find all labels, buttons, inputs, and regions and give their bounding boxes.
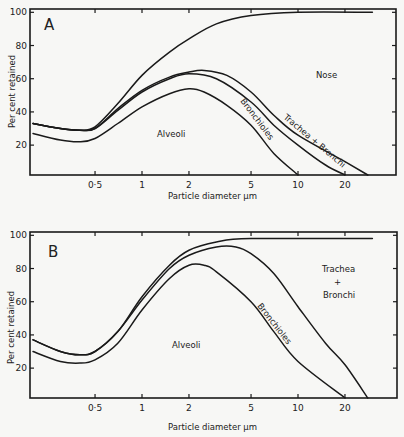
x-axis-label-a: Particle diameter µm xyxy=(168,191,257,201)
x-tick-label: 5 xyxy=(248,403,254,413)
y-tick-label: 20 xyxy=(16,140,28,150)
curves-b xyxy=(33,238,372,398)
series-curve xyxy=(33,246,368,398)
chart-panel-b: 0·5125102020406080100 B Trachea + Bronch… xyxy=(6,230,397,432)
region-label-bronchioles-b: Bronchioles xyxy=(255,301,294,347)
y-tick-label: 100 xyxy=(10,230,27,240)
y-axis-label-b: Per cent retained xyxy=(6,291,16,364)
panel-letter-a: A xyxy=(44,16,55,34)
y-axis-label-a: Per cent retained xyxy=(7,55,17,128)
x-tick-label: 2 xyxy=(186,403,192,413)
x-tick-label: 10 xyxy=(292,180,304,190)
x-tick-label: 5 xyxy=(248,180,254,190)
y-tick-label: 80 xyxy=(16,264,28,274)
y-tick-label: 100 xyxy=(10,7,27,17)
y-tick-label: 40 xyxy=(16,107,28,117)
x-axis-label-b: Particle diameter µm xyxy=(168,422,257,432)
x-tick-label: 2 xyxy=(186,180,192,190)
plot-frame-a xyxy=(30,9,396,175)
x-tick-label: 1 xyxy=(139,403,145,413)
x-tick-label: 1 xyxy=(139,180,145,190)
respiratory-retention-figure: 0·5125102020406080100 A Nose Trachea + B… xyxy=(0,0,404,437)
y-tick-label: 60 xyxy=(16,74,28,84)
panel-letter-b: B xyxy=(48,243,58,261)
region-label-tb-line1: Trachea xyxy=(321,264,355,274)
x-tick-label: 10 xyxy=(292,403,304,413)
region-label-nose: Nose xyxy=(316,70,337,80)
y-tick-label: 80 xyxy=(16,41,28,51)
region-label-alveoli-b: Alveoli xyxy=(172,340,200,350)
region-label-tb-line2: + xyxy=(334,277,341,287)
x-tick-label: 0·5 xyxy=(88,403,102,413)
y-tick-label: 60 xyxy=(16,297,28,307)
series-curve xyxy=(33,264,345,398)
axis-ticks-b: 0·5125102020406080100 xyxy=(10,230,397,413)
region-label-tb-line3: Bronchi xyxy=(323,290,355,300)
chart-panel-a: 0·5125102020406080100 A Nose Trachea + B… xyxy=(7,7,396,201)
x-tick-label: 20 xyxy=(339,403,351,413)
y-tick-label: 40 xyxy=(16,330,28,340)
x-tick-label: 0·5 xyxy=(88,180,102,190)
region-label-alveoli-a: Alveoli xyxy=(157,129,185,139)
y-tick-label: 20 xyxy=(16,363,28,373)
x-tick-label: 20 xyxy=(339,180,351,190)
plot-frame-b xyxy=(30,232,397,398)
